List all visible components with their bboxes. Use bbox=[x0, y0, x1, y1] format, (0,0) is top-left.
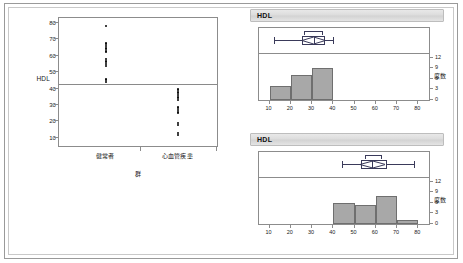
boxplot-ci-bracket bbox=[304, 31, 323, 35]
histogram-x-tick bbox=[332, 225, 333, 228]
histogram-x-tick bbox=[354, 101, 355, 104]
oneway-y-tick: 20 bbox=[34, 118, 56, 124]
oneway-x-tick-mark bbox=[140, 147, 141, 151]
panel-title-bar[interactable]: HDL bbox=[250, 9, 444, 22]
histogram-x-tick bbox=[311, 101, 312, 104]
histogram-x-tick bbox=[417, 101, 418, 104]
histogram-y-tick-label: 12 bbox=[435, 54, 441, 60]
oneway-y-tick: 80 bbox=[34, 20, 56, 26]
histogram-y-tick bbox=[430, 191, 433, 192]
histogram-y-tick-label: 0 bbox=[435, 96, 438, 102]
oneway-analysis: HDL 1020304050607080 健常者心血管疾患 群 bbox=[10, 9, 232, 253]
histogram-bar bbox=[333, 203, 354, 224]
oneway-group-tick-label: 心血管疾患 bbox=[162, 151, 193, 160]
oneway-group-tick-label: 健常者 bbox=[96, 151, 115, 160]
histogram-x-tick-label: 60 bbox=[372, 229, 378, 235]
histogram-x-tick bbox=[269, 225, 270, 228]
oneway-y-tick-mark bbox=[54, 88, 58, 89]
histogram-x-tick-label: 80 bbox=[414, 105, 420, 111]
oneway-y-tick: 50 bbox=[34, 69, 56, 75]
histogram-bar bbox=[397, 220, 418, 224]
distribution-panel-hdl-cvd: HDL 度数 1020304050607080036912 bbox=[244, 9, 450, 125]
oneway-y-tick-mark bbox=[54, 137, 58, 138]
histogram-x-tick bbox=[332, 101, 333, 104]
panel-title-bar[interactable]: HDL bbox=[250, 133, 444, 146]
histogram-y-tick bbox=[430, 57, 433, 58]
oneway-y-tick: 10 bbox=[34, 135, 56, 141]
histogram-x-tick-label: 30 bbox=[308, 229, 314, 235]
histogram-x-tick bbox=[290, 225, 291, 228]
boxplot-whisker-high bbox=[387, 164, 415, 165]
boxplot-cap-low bbox=[274, 37, 275, 44]
oneway-y-tick-mark bbox=[54, 104, 58, 105]
oneway-plot-area[interactable] bbox=[58, 17, 218, 147]
histogram-x-tick-label: 30 bbox=[308, 105, 314, 111]
distribution-panel-hdl-healthy: HDL 度数 1020304050607080036912 bbox=[244, 133, 450, 249]
histogram-y-tick-label: 9 bbox=[435, 188, 438, 194]
histogram-y-tick bbox=[430, 212, 433, 213]
histogram-y-tick bbox=[430, 181, 433, 182]
histogram-x-tick-label: 20 bbox=[287, 105, 293, 111]
boxplot-whisker-low bbox=[274, 40, 302, 41]
boxplot-cap-high bbox=[414, 161, 415, 168]
histogram-area[interactable] bbox=[258, 177, 430, 225]
grand-mean-line bbox=[59, 84, 217, 85]
histogram-x-tick bbox=[311, 225, 312, 228]
data-point bbox=[105, 81, 107, 83]
histogram-x-tick-label: 80 bbox=[414, 229, 420, 235]
histogram-bar bbox=[312, 68, 333, 100]
histogram-area[interactable] bbox=[258, 53, 430, 101]
histogram-x-tick bbox=[396, 101, 397, 104]
histogram-y-tick bbox=[430, 99, 433, 100]
boxplot-mean-diamond bbox=[360, 161, 386, 168]
histogram-x-tick-label: 10 bbox=[266, 229, 272, 235]
histogram-x-tick-label: 10 bbox=[266, 105, 272, 111]
histogram-x-tick bbox=[375, 101, 376, 104]
histogram-x-tick bbox=[396, 225, 397, 228]
panel-title: HDL bbox=[257, 12, 272, 19]
boxplot-ci-bracket bbox=[365, 155, 382, 159]
histogram-y-tick-label: 6 bbox=[435, 75, 438, 81]
histogram-x-tick bbox=[269, 101, 270, 104]
histogram-y-tick-label: 0 bbox=[435, 220, 438, 226]
boxplot-area[interactable] bbox=[258, 27, 430, 53]
histogram-x-tick-label: 50 bbox=[351, 229, 357, 235]
histogram-x-tick-label: 40 bbox=[329, 229, 335, 235]
histogram-y-tick bbox=[430, 78, 433, 79]
boxplot-whisker-low bbox=[342, 164, 361, 165]
histogram-y-tick-label: 6 bbox=[435, 199, 438, 205]
oneway-y-tick-labels: 1020304050607080 bbox=[32, 17, 56, 147]
boxplot-mean-diamond bbox=[302, 37, 325, 44]
data-point bbox=[177, 134, 179, 136]
histogram-y-tick-label: 3 bbox=[435, 209, 438, 215]
panel-title: HDL bbox=[257, 136, 272, 143]
oneway-y-tick-mark bbox=[54, 38, 58, 39]
data-point bbox=[177, 112, 179, 114]
data-point bbox=[105, 51, 107, 53]
oneway-y-tick: 60 bbox=[34, 53, 56, 59]
histogram-bar bbox=[376, 196, 397, 224]
histogram-x-tick-label: 50 bbox=[351, 105, 357, 111]
data-point bbox=[177, 124, 179, 126]
data-point bbox=[177, 99, 179, 101]
histogram-x-tick-label: 60 bbox=[372, 105, 378, 111]
histogram-y-tick bbox=[430, 88, 433, 89]
histogram-x-tick bbox=[290, 101, 291, 104]
histogram-y-tick bbox=[430, 223, 433, 224]
histogram-bar bbox=[291, 75, 312, 100]
boxplot-cap-low bbox=[342, 161, 343, 168]
oneway-y-tick-mark bbox=[54, 120, 58, 121]
data-point bbox=[105, 65, 107, 67]
histogram-x-tick bbox=[354, 225, 355, 228]
histogram-x-tick-label: 70 bbox=[393, 229, 399, 235]
histogram-x-tick-label: 20 bbox=[287, 229, 293, 235]
histogram-x-tick bbox=[417, 225, 418, 228]
boxplot-area[interactable] bbox=[258, 151, 430, 177]
histogram-bar bbox=[270, 86, 291, 100]
histogram-x-tick bbox=[375, 225, 376, 228]
histogram-x-tick-label: 70 bbox=[393, 105, 399, 111]
histogram-bar bbox=[355, 205, 376, 224]
report-canvas: HDL 1020304050607080 健常者心血管疾患 群 HDL 度数 1… bbox=[0, 0, 463, 263]
oneway-y-tick-mark bbox=[54, 22, 58, 23]
oneway-y-tick: 30 bbox=[34, 102, 56, 108]
